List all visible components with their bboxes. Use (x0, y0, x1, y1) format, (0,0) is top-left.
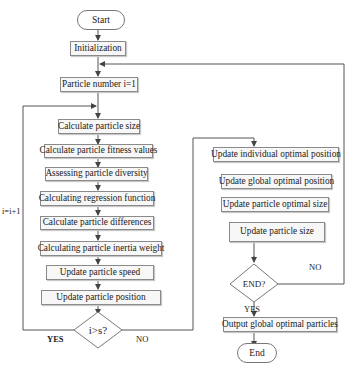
decision-end: END? (234, 276, 274, 292)
label-loop-increment: i=i+1 (2, 206, 21, 216)
label-end-yes: YES (244, 304, 260, 314)
decision-i-gt-s: i>s? (74, 321, 122, 339)
label-yes-loop: YES (47, 334, 64, 344)
node-calc-regression: Calculating regression function (40, 191, 154, 206)
node-update-individual: Update individual optimal position (213, 147, 339, 162)
node-calc-fitness: Calculate particle fitness values (44, 144, 153, 158)
node-particle-number: Particle number i=1 (60, 77, 138, 92)
label-end-no: NO (309, 262, 321, 272)
node-initialization: Initialization (70, 41, 126, 56)
end-terminal: End (237, 343, 277, 363)
node-update-position: Update particle position (41, 290, 161, 305)
node-calc-inertia: Calculating particle inertia weight (40, 241, 162, 256)
node-calc-size: Calculate particle size (58, 119, 140, 134)
start-terminal: Start (77, 10, 125, 30)
label-no-right: NO (136, 334, 148, 344)
node-output-global: Output global optimal particles (223, 317, 337, 332)
node-calc-differences: Calculate particle differences (40, 216, 154, 230)
node-update-optimal-size: Update particle optimal size (221, 197, 329, 212)
node-update-speed: Update particle speed (46, 265, 154, 280)
node-assess-diversity: Assessing particle diversity (45, 167, 148, 181)
node-update-global: Update global optimal position (221, 174, 332, 189)
node-update-size: Update particle size (229, 222, 325, 242)
